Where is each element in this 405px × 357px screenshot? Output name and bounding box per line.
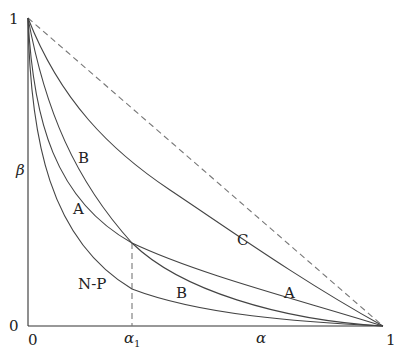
label-curve-a-lower: A <box>283 284 295 302</box>
label-curve-a-upper: A <box>72 200 84 218</box>
label-curve-b-lower: B <box>176 284 187 302</box>
y-tick-one: 1 <box>9 10 19 28</box>
x-tick-alpha1: α 1 <box>124 329 140 349</box>
x-axis-label: α <box>256 329 266 347</box>
label-curve-b-upper: B <box>78 149 89 167</box>
svg-text:α: α <box>124 329 134 347</box>
x-tick-one: 1 <box>386 331 396 349</box>
roc-chart: 1 0 0 1 α 1 α β B A C N-P B A <box>0 0 405 357</box>
label-curve-np: N-P <box>78 275 106 293</box>
label-curve-c: C <box>237 231 248 249</box>
y-tick-zero: 0 <box>9 317 19 335</box>
y-axis-label: β <box>15 161 25 179</box>
svg-text:1: 1 <box>134 338 140 349</box>
x-tick-zero: 0 <box>28 331 38 349</box>
